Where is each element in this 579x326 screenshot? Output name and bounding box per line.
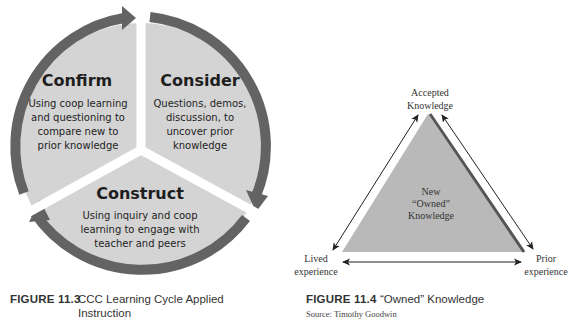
knowledge-triangle	[342, 114, 523, 252]
segment-text-confirm-1: Using coop learning	[28, 98, 127, 109]
figure-number: FIGURE 11.4	[306, 293, 377, 305]
center-label-2: “Owned”	[412, 198, 450, 209]
segment-text-confirm-3: compare new to	[38, 126, 119, 137]
segment-text-consider-3: uncover prior	[166, 126, 234, 137]
figure-source: Source: Timothy Goodwin	[306, 309, 397, 319]
ccc-learning-cycle-diagram: Confirm Using coop learning and question…	[0, 0, 290, 292]
segment-text-confirm-2: and questioning to	[31, 112, 125, 123]
vertex-label-prior-2: experience	[524, 266, 568, 277]
segment-heading-consider: Consider	[160, 71, 239, 90]
vertex-label-prior-1: Prior	[536, 253, 557, 264]
figure-number: FIGURE 11.3	[10, 293, 81, 305]
figure-title-line1: CCC Learning Cycle Applied	[78, 292, 224, 307]
segment-heading-construct: Construct	[96, 184, 184, 203]
segment-text-consider-1: Questions, demos,	[153, 98, 246, 109]
segment-text-construct-2: learning to engage with	[80, 224, 199, 235]
vertex-label-lived-1: Lived	[304, 253, 327, 264]
center-label-1: New	[422, 186, 442, 197]
figure-title-line2: Instruction	[78, 306, 131, 321]
vertex-label-accepted-1: Accepted	[411, 87, 449, 98]
vertex-label-lived-2: experience	[294, 266, 338, 277]
segment-text-construct-1: Using inquiry and coop	[82, 210, 197, 221]
segment-text-consider-4: knowledge	[173, 140, 227, 151]
owned-knowledge-diagram: Accepted Knowledge Lived experience Prio…	[290, 60, 579, 290]
figure-title: “Owned” Knowledge	[380, 292, 484, 307]
center-label-3: Knowledge	[408, 210, 455, 221]
segment-text-confirm-4: prior knowledge	[38, 140, 119, 151]
segment-text-construct-3: teacher and peers	[94, 238, 185, 249]
figure-11-3-caption: FIGURE 11.3 CCC Learning Cycle Applied I…	[10, 292, 280, 307]
segment-text-consider-2: discussion, to	[166, 112, 234, 123]
segment-heading-confirm: Confirm	[42, 71, 113, 90]
vertex-label-accepted-2: Knowledge	[407, 100, 454, 111]
figure-11-4-caption: FIGURE 11.4 “Owned” Knowledge	[306, 292, 576, 307]
